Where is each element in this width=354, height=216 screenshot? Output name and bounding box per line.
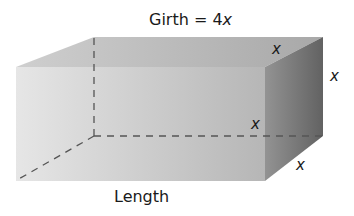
label-inner-height-x: x [251, 117, 260, 132]
label-length: Length [114, 189, 169, 205]
label-right-height-x: x [330, 69, 339, 84]
front-face [16, 67, 265, 181]
label-top-depth-x: x [272, 42, 281, 57]
girth-title: Girth = 4x [149, 12, 232, 28]
label-bottom-depth-x: x [296, 158, 305, 173]
girth-title-variable: x [223, 10, 232, 29]
rectangular-prism-diagram [0, 0, 354, 216]
girth-title-prefix: Girth = 4 [149, 10, 223, 29]
